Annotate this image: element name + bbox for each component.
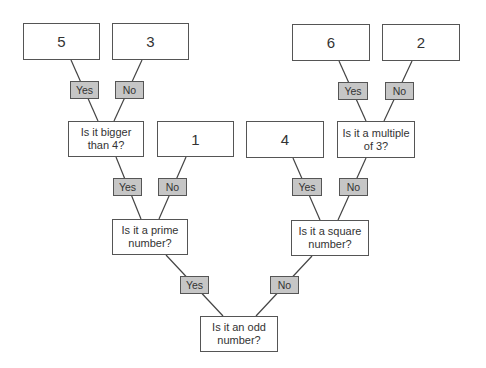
tag-label: Yes [119, 181, 136, 193]
leaf-value: 5 [57, 33, 65, 50]
leaf-value: 4 [281, 131, 289, 148]
leaf-value: 1 [191, 131, 199, 148]
tag-label: Yes [344, 85, 361, 97]
question-prime-number: Is it a prime number? [112, 219, 188, 255]
question-odd-number: Is it an odd number? [200, 316, 278, 352]
tag-yes-4: Yes [292, 178, 322, 196]
leaf-2: 2 [382, 24, 460, 61]
leaf-6: 6 [292, 24, 370, 61]
question-text: Is it a prime number? [116, 224, 184, 250]
tag-yes-prime: Yes [180, 276, 209, 294]
question-text: Is it a square number? [295, 225, 365, 251]
tag-label: No [123, 84, 136, 96]
question-multiple-of-3: Is it a multiple of 3? [337, 121, 415, 158]
question-text: Is it bigger than 4? [72, 126, 140, 152]
leaf-value: 6 [327, 34, 335, 51]
leaf-3: 3 [112, 23, 189, 60]
leaf-4: 4 [246, 121, 324, 158]
tag-label: No [393, 85, 406, 97]
tag-yes-5: Yes [70, 81, 99, 99]
tag-yes-6: Yes [338, 82, 368, 100]
leaf-value: 3 [146, 33, 154, 50]
tag-label: No [347, 181, 360, 193]
leaf-1: 1 [157, 121, 234, 157]
question-square-number: Is it a square number? [291, 220, 369, 256]
question-text: Is it an odd number? [204, 321, 274, 347]
tag-no-1: No [158, 178, 187, 196]
tag-label: No [278, 279, 291, 291]
tag-no-multiple: No [339, 178, 368, 196]
leaf-value: 2 [417, 34, 425, 51]
question-text: Is it a multiple of 3? [341, 127, 411, 153]
tag-label: Yes [186, 279, 203, 291]
tag-label: No [166, 181, 179, 193]
question-bigger-than-4: Is it bigger than 4? [68, 121, 144, 157]
leaf-5: 5 [23, 23, 100, 60]
tag-label: Yes [76, 84, 93, 96]
tag-label: Yes [298, 181, 315, 193]
tag-yes-bigger: Yes [113, 178, 142, 196]
tag-no-2: No [385, 82, 414, 100]
tag-no-3: No [115, 81, 144, 99]
tag-no-square: No [270, 276, 299, 294]
